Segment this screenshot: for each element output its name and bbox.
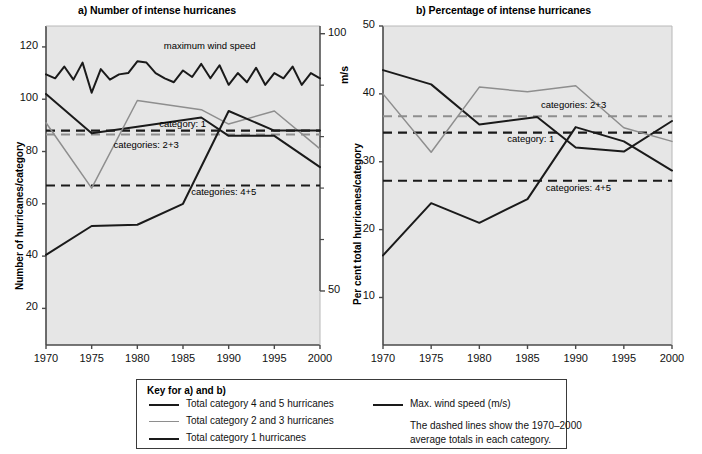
y-tick-a-40: 40: [12, 248, 38, 260]
annotation-a-1: category: 1: [159, 118, 206, 129]
hurricane-figure: a) Number of intense hurricanes Number o…: [0, 0, 702, 454]
legend-swatch-cat1: [149, 438, 179, 440]
annotation-a-3: categories: 4+5: [191, 186, 256, 197]
y-tick-a-100: 100: [12, 91, 38, 103]
legend-title: Key for a) and b): [147, 385, 226, 396]
x-tick-2000: 2000: [657, 352, 687, 364]
legend-swatch-windspeed: [373, 404, 403, 406]
x-tick-1995: 1995: [609, 352, 639, 364]
legend-note-line1: The dashed lines show the 1970–2000: [410, 419, 582, 432]
y-tick-b-50: 50: [349, 18, 375, 30]
x-tick-1980: 1980: [122, 352, 152, 364]
annotation-b-2: categories: 4+5: [546, 182, 611, 193]
x-tick-1970: 1970: [31, 352, 61, 364]
y-tick-a-80: 80: [12, 144, 38, 156]
y-tick-b-40: 40: [349, 86, 375, 98]
x-tick-1990: 1990: [214, 352, 244, 364]
y-tick-b-30: 30: [349, 154, 375, 166]
x-tick-1985: 1985: [513, 352, 543, 364]
x-tick-2000: 2000: [305, 352, 335, 364]
y2-tick-50: 50: [328, 283, 340, 295]
annotation-b-1: category: 1: [507, 133, 554, 144]
y-tick-b-10: 10: [349, 289, 375, 301]
annotation-a-0: maximum wind speed: [164, 40, 256, 51]
x-tick-1995: 1995: [259, 352, 289, 364]
y-tick-a-120: 120: [12, 39, 38, 51]
x-tick-1980: 1980: [464, 352, 494, 364]
annotation-a-2: categories: 2+3: [114, 139, 179, 150]
y-tick-b-20: 20: [349, 222, 375, 234]
legend-swatch-cat23: [149, 421, 179, 422]
legend-note-line2: average totals in each category.: [410, 433, 551, 446]
legend-entry-cat45: Total category 4 and 5 hurricanes: [186, 398, 334, 409]
x-tick-1970: 1970: [368, 352, 398, 364]
x-tick-1975: 1975: [77, 352, 107, 364]
legend-swatch-cat45: [149, 404, 179, 406]
y2-tick-100: 100: [328, 26, 346, 38]
y-tick-a-20: 20: [12, 300, 38, 312]
legend-entry-windspeed: Max. wind speed (m/s): [410, 398, 511, 409]
y-tick-a-60: 60: [12, 196, 38, 208]
legend-entry-cat23: Total category 2 and 3 hurricanes: [186, 415, 334, 426]
legend-entry-cat1: Total category 1 hurricanes: [186, 432, 306, 443]
x-tick-1985: 1985: [168, 352, 198, 364]
annotation-b-0: categories: 2+3: [541, 99, 606, 110]
x-tick-1975: 1975: [416, 352, 446, 364]
x-tick-1990: 1990: [561, 352, 591, 364]
